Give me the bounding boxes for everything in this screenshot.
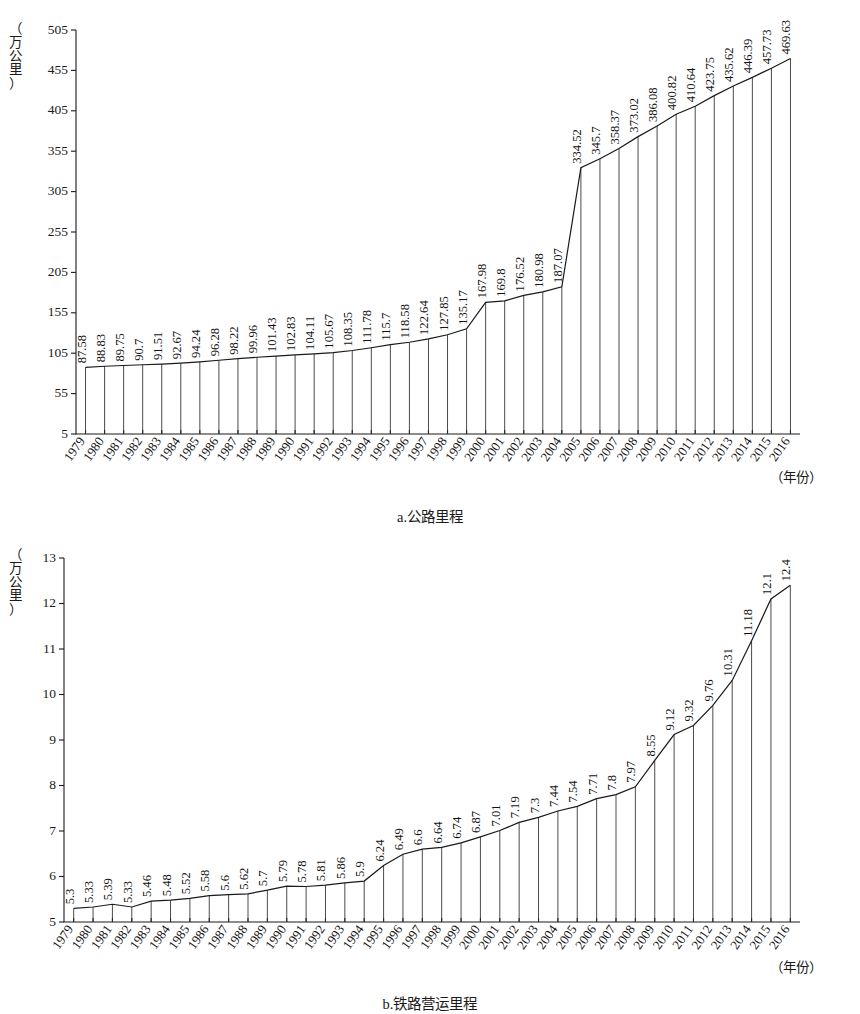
data-point-label: 6.74 xyxy=(450,816,464,839)
y-axis-tick-label: 455 xyxy=(48,62,69,77)
data-point-label: 167.98 xyxy=(475,264,489,299)
data-point-label: 7.54 xyxy=(566,780,580,803)
data-point-label: 6.24 xyxy=(373,839,387,862)
data-point-label: 469.63 xyxy=(779,20,793,55)
y-axis-tick-label: 11 xyxy=(43,641,56,656)
data-point-label: 446.39 xyxy=(741,39,755,74)
data-point-label: 115.7 xyxy=(379,313,393,341)
data-point-label: 423.75 xyxy=(703,57,717,92)
y-axis-tick-label: 5 xyxy=(61,426,68,441)
data-point-label: 5.79 xyxy=(276,860,290,882)
data-point-label: 6.64 xyxy=(431,821,445,844)
data-point-label: 5.7 xyxy=(256,870,270,886)
data-point-label: 5.3 xyxy=(63,889,77,905)
data-point-label: 6.49 xyxy=(392,828,406,850)
y-axis-tick-label: 55 xyxy=(55,385,69,400)
y-axis-unit-char: （ xyxy=(6,548,24,562)
data-point-label: 8.55 xyxy=(644,734,658,756)
chart-canvas-b: 56789101112135.35.335.395.335.465.485.52… xyxy=(0,530,860,990)
data-point-label: 102.83 xyxy=(284,316,298,351)
y-axis-unit-char: 万 xyxy=(6,562,24,576)
y-axis-tick-label: 12 xyxy=(43,595,57,610)
x-axis-unit-label-a: （年份） xyxy=(770,466,822,486)
y-axis-unit-char: 里 xyxy=(6,589,24,603)
data-point-label: 5.81 xyxy=(314,859,328,881)
data-point-label: 127.85 xyxy=(437,296,451,331)
data-point-label: 5.86 xyxy=(334,857,348,879)
data-point-label: 7.3 xyxy=(528,798,542,814)
y-axis-tick-label: 305 xyxy=(48,183,69,198)
y-axis-tick-label: 155 xyxy=(48,304,69,319)
data-point-label: 99.96 xyxy=(246,325,260,353)
data-series-line xyxy=(74,585,791,908)
data-point-label: 6.87 xyxy=(469,811,483,833)
data-point-label: 7.8 xyxy=(605,775,619,791)
y-axis-tick-label: 13 xyxy=(43,550,57,565)
data-point-label: 5.78 xyxy=(295,860,309,882)
data-point-label: 10.31 xyxy=(721,648,735,676)
data-point-label: 9.12 xyxy=(663,708,677,730)
y-axis-unit-char: 公 xyxy=(6,576,24,590)
y-axis-unit-char: ） xyxy=(6,603,24,617)
data-point-label: 187.07 xyxy=(551,248,565,283)
data-point-label: 169.8 xyxy=(494,268,508,296)
data-point-label: 96.28 xyxy=(208,328,222,356)
data-point-label: 386.08 xyxy=(646,87,660,122)
data-point-label: 91.51 xyxy=(151,332,165,360)
chart-caption-b: b.铁路营运里程 xyxy=(0,992,860,1013)
data-point-label: 101.43 xyxy=(265,317,279,352)
data-point-label: 89.75 xyxy=(113,333,127,361)
data-point-label: 122.64 xyxy=(417,300,431,335)
data-point-label: 5.33 xyxy=(82,881,96,903)
data-point-label: 5.58 xyxy=(198,870,212,892)
data-point-label: 7.71 xyxy=(586,773,600,795)
y-axis-tick-label: 505 xyxy=(48,22,69,37)
data-point-label: 180.98 xyxy=(532,253,546,288)
data-point-label: 9.32 xyxy=(682,699,696,721)
chart-canvas-a: 55510515520525530535540545550587.5888.83… xyxy=(0,0,860,520)
chart-railway-mileage: （万公里） 56789101112135.35.335.395.335.465.… xyxy=(0,530,860,1014)
y-axis-unit-char: （ xyxy=(6,22,24,36)
data-point-label: 373.02 xyxy=(627,98,641,133)
data-point-label: 12.4 xyxy=(779,559,793,582)
y-axis-tick-label: 5 xyxy=(49,914,56,929)
x-axis-unit-label-b: （年份） xyxy=(770,956,822,976)
y-axis-unit-char: 公 xyxy=(6,50,24,64)
data-point-label: 410.64 xyxy=(684,67,698,102)
data-point-label: 5.46 xyxy=(140,875,154,897)
data-point-label: 9.76 xyxy=(702,679,716,701)
data-point-label: 400.82 xyxy=(665,76,679,111)
data-point-label: 7.97 xyxy=(624,761,638,783)
y-axis-tick-label: 205 xyxy=(48,264,69,279)
data-point-label: 111.78 xyxy=(360,310,374,344)
data-point-label: 457.73 xyxy=(760,30,774,65)
data-point-label: 5.33 xyxy=(121,881,135,903)
data-point-label: 5.9 xyxy=(353,861,367,877)
data-point-label: 92.67 xyxy=(170,331,184,359)
y-axis-tick-label: 355 xyxy=(48,143,69,158)
y-axis-tick-label: 105 xyxy=(48,345,69,360)
data-point-label: 5.48 xyxy=(160,874,174,896)
data-point-label: 135.17 xyxy=(456,290,470,325)
data-point-label: 90.7 xyxy=(132,339,146,361)
y-axis-tick-label: 7 xyxy=(49,823,56,838)
data-point-label: 7.01 xyxy=(489,804,503,826)
data-point-label: 105.67 xyxy=(322,314,336,349)
y-axis-unit-char: 里 xyxy=(6,63,24,77)
data-point-label: 5.39 xyxy=(101,878,115,900)
y-axis-tick-label: 9 xyxy=(49,732,56,747)
data-point-label: 358.37 xyxy=(608,110,622,145)
x-axis-year-label: 2016 xyxy=(766,922,793,952)
y-axis-unit-label-a: （万公里） xyxy=(6,22,24,91)
figure-page: （万公里） 55510515520525530535540545550587.5… xyxy=(0,0,860,1014)
data-point-label: 5.52 xyxy=(179,872,193,894)
y-axis-tick-label: 8 xyxy=(49,777,56,792)
chart-caption-a: a.公路里程 xyxy=(0,505,860,526)
data-point-label: 98.22 xyxy=(227,326,241,354)
data-point-label: 7.19 xyxy=(508,796,522,818)
data-point-label: 176.52 xyxy=(513,257,527,292)
y-axis-tick-label: 10 xyxy=(43,686,57,701)
data-point-label: 88.83 xyxy=(94,334,108,362)
data-point-label: 6.6 xyxy=(411,829,425,845)
y-axis-tick-label: 6 xyxy=(49,868,56,883)
